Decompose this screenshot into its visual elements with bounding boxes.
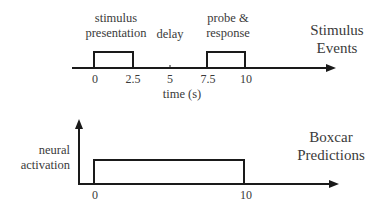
y-axis-arrow-icon (75, 119, 83, 129)
boxcar-predictions-title: Boxcar Predictions (288, 128, 374, 164)
tick-2.5: 2.5 (126, 73, 141, 85)
tick-0: 0 (92, 73, 98, 85)
tick-10: 10 (240, 73, 252, 85)
probe-label: probe & response (196, 12, 260, 39)
delay-label: delay (150, 28, 190, 41)
probe-response-box (207, 52, 245, 68)
tick-7.5: 7.5 (201, 73, 216, 85)
bottom-tick-0: 0 (92, 189, 98, 201)
top-time-axis (72, 64, 336, 72)
stimulus-presentation-box (94, 52, 133, 68)
x-axis-label: time (s) (163, 88, 202, 101)
tick-5: 5 (167, 73, 173, 85)
bottom-tick-10: 10 (240, 189, 252, 201)
boxcar-prediction (94, 160, 244, 184)
stimulus-events-title: Stimulus Events (300, 21, 374, 57)
axis-arrow-icon (326, 64, 336, 72)
neural-activation-label: neural activation (0, 144, 70, 171)
x-axis-arrow-icon (329, 180, 339, 188)
